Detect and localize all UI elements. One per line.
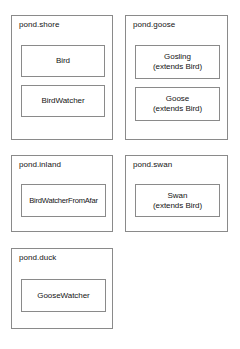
package-pond-goose[interactable]: pond.goose Gosling (extends Bird) Goose …: [125, 15, 228, 140]
package-label-pond-inland: pond.inland: [19, 160, 61, 170]
class-name-goosewatcher: GooseWatcher: [37, 291, 89, 301]
class-stereotype-gosling: (extends Bird): [153, 62, 202, 72]
class-text-gosling: Gosling (extends Bird): [153, 52, 202, 72]
class-stereotype-swan: (extends Bird): [153, 201, 202, 211]
class-box-birdwatcherfromafar[interactable]: BirdWatcherFromAfar: [21, 184, 106, 217]
class-box-goosewatcher[interactable]: GooseWatcher: [21, 279, 106, 312]
class-name-goose: Goose: [166, 94, 189, 103]
package-pond-swan[interactable]: pond.swan Swan (extends Bird): [125, 155, 228, 232]
class-text-goose: Goose (extends Bird): [153, 94, 202, 114]
class-name-bird: Bird: [56, 56, 70, 66]
package-pond-inland[interactable]: pond.inland BirdWatcherFromAfar: [11, 155, 113, 232]
package-label-pond-swan: pond.swan: [133, 160, 172, 170]
class-name-swan: Swan: [168, 191, 188, 200]
uml-package-diagram: pond.shore Bird BirdWatcher pond.goose G…: [0, 0, 240, 349]
class-box-swan[interactable]: Swan (extends Bird): [135, 184, 220, 217]
package-pond-duck[interactable]: pond.duck GooseWatcher: [11, 248, 113, 329]
class-name-birdwatcherfromafar: BirdWatcherFromAfar: [29, 196, 97, 206]
class-text-swan: Swan (extends Bird): [153, 191, 202, 211]
class-box-bird[interactable]: Bird: [21, 45, 105, 77]
package-label-pond-shore: pond.shore: [19, 20, 60, 30]
class-box-goose[interactable]: Goose (extends Bird): [135, 87, 220, 121]
package-pond-shore[interactable]: pond.shore Bird BirdWatcher: [11, 15, 113, 140]
class-name-birdwatcher: BirdWatcher: [41, 96, 84, 106]
class-box-birdwatcher[interactable]: BirdWatcher: [21, 85, 105, 117]
class-box-gosling[interactable]: Gosling (extends Bird): [135, 45, 220, 79]
class-name-gosling: Gosling: [164, 52, 191, 61]
package-label-pond-duck: pond.duck: [19, 253, 56, 263]
package-label-pond-goose: pond.goose: [133, 20, 175, 30]
class-stereotype-goose: (extends Bird): [153, 104, 202, 114]
